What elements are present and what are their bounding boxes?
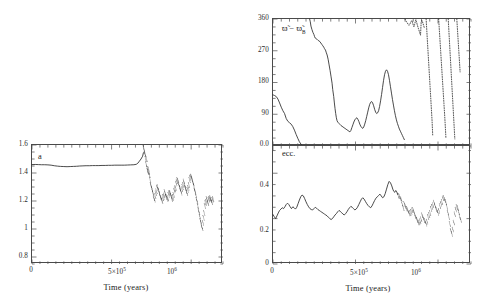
plot-frame-a	[31, 144, 222, 263]
panel-pericenter-difference: 360 270 180 90 0.0 ϖ̃ − ϖ̃B	[240, 0, 483, 152]
ytick-a-1: 1.4	[6, 168, 28, 176]
panel-eccentricity: 0.4 0.2 0 0 5×105 106 Time (years) ecc.	[240, 145, 483, 303]
xtick-ecc-1: 5×105	[342, 267, 376, 277]
ytick-ecc-0: 0.4	[246, 181, 269, 189]
xtick-ecc-0-text: 0	[270, 267, 274, 275]
panel-semi-major-axis: 1.6 1.4 1.2 1 0.8 0 5×105 106 Time (year…	[0, 0, 240, 303]
xtick-a-1-text: 5×10	[108, 268, 123, 276]
plot-canvas-a	[32, 145, 223, 264]
panel-label-omega-main: ϖ̃ − ϖ̃	[282, 24, 302, 33]
axis-ticks-omega	[273, 19, 471, 146]
plot-frame-omega	[272, 18, 470, 145]
xtick-a-0: 0	[24, 266, 38, 274]
ytick-omega-2: 180	[244, 77, 269, 85]
xtick-a-0-text: 0	[29, 266, 33, 274]
ytick-a-2: 1.2	[6, 196, 28, 204]
xtick-ecc-2: 106	[405, 267, 427, 277]
ytick-omega-0: 360	[244, 14, 269, 22]
panel-label-omega: ϖ̃ − ϖ̃B	[282, 24, 305, 35]
data-series-omega	[273, 19, 460, 146]
data-series-a	[32, 145, 214, 231]
ytick-a-3: 1	[6, 224, 28, 232]
xtick-ecc-2-exp: 6	[418, 267, 421, 273]
ytick-ecc-2: 0	[246, 259, 269, 267]
ytick-omega-1: 270	[244, 46, 269, 54]
xtick-ecc-0: 0	[265, 267, 279, 275]
ytick-a-0: 1.6	[6, 140, 28, 148]
panel-label-omega-sub: B	[302, 29, 306, 35]
xtick-a-2-exp: 6	[174, 266, 177, 272]
xtick-ecc-1-text: 5×10	[350, 269, 365, 277]
xaxis-title-ecc: Time (years)	[308, 284, 428, 293]
data-series-ecc	[273, 181, 462, 236]
xtick-a-1-exp: 5	[123, 266, 126, 272]
plot-canvas-omega	[273, 19, 471, 146]
plot-frame-ecc	[272, 145, 470, 263]
xtick-ecc-1-exp: 5	[365, 267, 368, 273]
ytick-a-4: 0.8	[6, 252, 28, 260]
ytick-ecc-1: 0.2	[246, 226, 269, 234]
panel-label-a: a	[38, 152, 42, 161]
axis-ticks-a	[32, 145, 223, 264]
xtick-a-2: 106	[161, 266, 183, 276]
ytick-omega-3: 90	[244, 109, 269, 117]
xtick-a-1: 5×105	[100, 266, 134, 276]
xaxis-title-a: Time (years)	[66, 283, 186, 292]
plot-canvas-ecc	[273, 146, 471, 264]
panel-label-ecc: ecc.	[282, 149, 295, 158]
